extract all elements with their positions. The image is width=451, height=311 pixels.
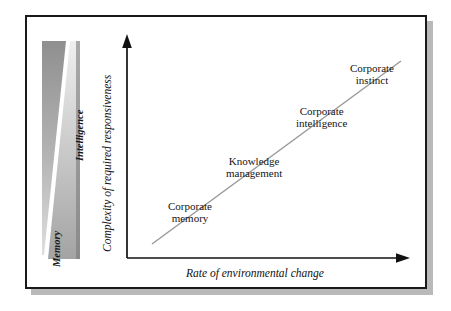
intelligence-wedge-label: Intelligence xyxy=(74,110,85,161)
memory-wedge-label: Memory xyxy=(51,231,62,267)
figure-frame xyxy=(25,15,427,289)
stage-label-knowledge-management: Knowledge management xyxy=(226,155,282,180)
stage-label-line2: management xyxy=(226,167,282,179)
stage-label-line1: Corporate xyxy=(168,200,212,212)
stage-label-corporate-memory: Corporate memory xyxy=(168,200,212,225)
stage-label-line1: Corporate xyxy=(350,62,394,74)
y-axis-title: Complexity of required responsiveness xyxy=(101,75,113,252)
stage-label-corporate-instinct: Corporate instinct xyxy=(350,62,394,87)
x-axis-title: Rate of environmental change xyxy=(186,267,324,279)
memory-intelligence-wedge-block: Memory Intelligence xyxy=(40,41,84,259)
stage-label-line1: Corporate xyxy=(300,105,344,117)
stage-label-line2: memory xyxy=(168,212,212,224)
stage-label-line2: instinct xyxy=(350,74,394,86)
stage-label-line1: Knowledge xyxy=(229,155,280,167)
stage-label-line2: intelligence xyxy=(296,117,347,129)
stage-label-corporate-intelligence: Corporate intelligence xyxy=(296,105,347,130)
